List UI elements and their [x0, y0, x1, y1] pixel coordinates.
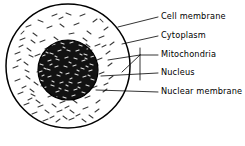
label-cell-membrane: Cell membrane [161, 11, 226, 21]
label-cytoplasm: Cytoplasm [161, 30, 206, 40]
label-nuclear-membrane: Nuclear membrane [161, 86, 242, 96]
leader-cytoplasm [122, 36, 158, 44]
label-nucleus: Nucleus [161, 67, 195, 77]
label-group: Cell membrane Cytoplasm Mitochondria Nuc… [161, 11, 242, 96]
animal-cell-diagram: Cell membrane Cytoplasm Mitochondria Nuc… [0, 0, 245, 146]
label-mitochondria: Mitochondria [161, 49, 216, 59]
leader-cell-membrane [118, 17, 158, 27]
nucleus-body [38, 40, 98, 100]
diagram-canvas: Cell membrane Cytoplasm Mitochondria Nuc… [0, 0, 245, 146]
